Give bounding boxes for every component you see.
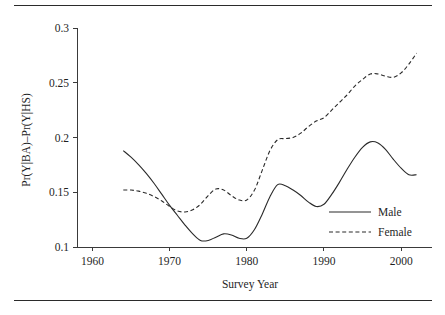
figure-container: 0.10.150.20.250.3 19601970198019902000 S…: [0, 0, 445, 315]
x-tick-label: 1990: [312, 255, 335, 267]
y-tick-label: 0.3: [55, 22, 70, 34]
x-axis-title: Survey Year: [222, 278, 278, 291]
legend-label-male: Male: [378, 206, 402, 218]
y-axis-ticks: [73, 28, 77, 247]
series-line-male: [123, 142, 416, 242]
y-tick-label: 0.25: [49, 77, 69, 89]
x-tick-label: 1960: [81, 255, 104, 267]
data-series-group: [123, 53, 416, 241]
x-tick-label: 2000: [390, 255, 413, 267]
chart-legend: Male Female: [329, 206, 412, 238]
y-tick-label: 0.15: [49, 186, 69, 198]
x-axis-ticks: [92, 247, 401, 251]
x-axis-tick-labels: 19601970198019902000: [81, 255, 413, 267]
y-axis-title: Pr(Y|BA)–Pr(Y|HS): [20, 93, 33, 187]
y-tick-label: 0.1: [55, 241, 70, 253]
series-line-female: [123, 53, 416, 212]
legend-label-female: Female: [378, 226, 412, 238]
x-tick-label: 1970: [158, 255, 181, 267]
y-tick-label: 0.2: [55, 132, 70, 144]
x-tick-label: 1980: [235, 255, 258, 267]
line-chart: 0.10.150.20.250.3 19601970198019902000 S…: [0, 0, 445, 315]
y-axis-tick-labels: 0.10.150.20.250.3: [49, 22, 69, 253]
